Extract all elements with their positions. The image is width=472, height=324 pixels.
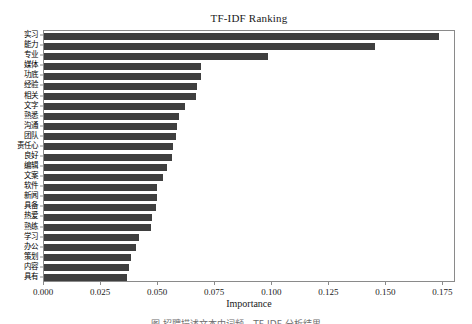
y-axis-tick-mark [40,115,43,116]
y-axis-tick-mark [40,55,43,56]
bar [44,154,172,161]
y-axis-tick-label: 文字 [24,102,38,110]
y-axis-tick-label: 熟练 [24,223,38,231]
bars-layer [44,31,454,281]
y-axis-tick-mark [40,176,43,177]
bar [44,73,201,80]
bar [44,113,179,120]
y-axis-tick-mark [40,45,43,46]
figure-caption: 图 招聘描述文本中词频 - TF-IDF 分析结果 [0,317,472,324]
bar [44,164,167,171]
y-axis-tick-mark [40,266,43,267]
y-axis-tick-label: 相关 [24,92,38,100]
x-axis-tick-label: 0.125 [318,287,338,297]
chart-title: TF-IDF Ranking [43,12,455,24]
bar [44,184,157,191]
x-axis-tick-label: 0.175 [432,287,452,297]
bar [44,244,136,251]
y-axis-tick-label: 办公 [24,243,38,251]
x-axis-tick-mark [271,282,272,285]
bar [44,274,127,281]
y-axis-tick-label: 新闻 [24,192,38,200]
tfidf-ranking-figure: TF-IDF Ranking 实习能力专业媒体功底经验相关文字熟悉沟通团队责任心… [0,0,472,324]
y-axis-tick-mark [40,216,43,217]
y-axis-tick-label: 责任心 [17,142,38,150]
x-axis-tick-label: 0.050 [147,287,167,297]
y-axis-tick-mark [40,105,43,106]
x-axis-tick-mark [100,282,101,285]
bar [44,174,163,181]
y-axis-tick-mark [40,35,43,36]
y-axis-tick-label: 经验 [24,81,38,89]
bar [44,53,268,60]
y-axis-tick-label: 内容 [24,263,38,271]
y-axis-tick-label: 良好 [24,152,38,160]
y-axis-tick-mark [40,135,43,136]
bar [44,254,131,261]
y-axis-tick-label: 学习 [24,233,38,241]
y-axis-tick-mark [40,276,43,277]
y-axis-tick-label: 团队 [24,132,38,140]
y-axis-tick-mark [40,166,43,167]
y-axis-tick-label: 专业 [24,51,38,59]
bar [44,204,156,211]
x-axis-tick-mark [442,282,443,285]
bar [44,33,439,40]
bar [44,43,375,50]
bar [44,224,151,231]
y-axis-tick-label: 媒体 [24,61,38,69]
y-axis-tick-mark [40,65,43,66]
bar [44,133,176,140]
y-axis-tick-mark [40,95,43,96]
y-axis-tick-label: 具有 [24,273,38,281]
y-axis-tick-label: 实习 [24,31,38,39]
y-axis-tick-mark [40,75,43,76]
y-axis-tick-label: 功底 [24,71,38,79]
y-axis-tick-label: 热爱 [24,212,38,220]
bar [44,103,185,110]
x-axis-tick-label: 0.150 [375,287,395,297]
y-axis-tick-mark [40,196,43,197]
y-axis-tick-mark [40,125,43,126]
bar [44,214,152,221]
y-axis-tick-label: 具备 [24,202,38,210]
y-axis-tick-mark [40,256,43,257]
y-axis-tick-label: 能力 [24,41,38,49]
y-axis-tick-label: 软件 [24,182,38,190]
y-axis-tick-label: 沟通 [24,122,38,130]
y-axis-tick-label: 熟悉 [24,112,38,120]
plot-area [43,30,455,282]
y-axis-tick-mark [40,85,43,86]
y-axis-tick-mark [40,246,43,247]
y-axis-tick-mark [40,145,43,146]
y-axis-tick-label: 编辑 [24,162,38,170]
x-axis-tick-label: 0.000 [33,287,53,297]
x-axis-title: Importance [43,298,455,309]
y-axis-tick-mark [40,156,43,157]
bar [44,234,139,241]
x-axis-tick-mark [385,282,386,285]
bar [44,83,197,90]
y-axis-tick-label: 文案 [24,172,38,180]
y-axis-labels: 实习能力专业媒体功底经验相关文字熟悉沟通团队责任心良好编辑文案软件新闻具备热爱熟… [0,30,43,282]
x-axis-tick-label: 0.025 [90,287,110,297]
y-axis-tick-mark [40,236,43,237]
y-axis-tick-label: 策划 [24,253,38,261]
x-axis-tick-label: 0.100 [261,287,281,297]
bar [44,194,157,201]
y-axis-tick-mark [40,226,43,227]
bar [44,63,201,70]
x-axis-tick-label: 0.075 [204,287,224,297]
x-axis-tick-mark [328,282,329,285]
bar [44,93,196,100]
y-axis-tick-mark [40,206,43,207]
x-axis-tick-mark [43,282,44,285]
x-axis-tick-mark [157,282,158,285]
bar [44,123,177,130]
bar [44,143,173,150]
bar [44,264,129,271]
y-axis-tick-mark [40,186,43,187]
x-axis-tick-mark [214,282,215,285]
